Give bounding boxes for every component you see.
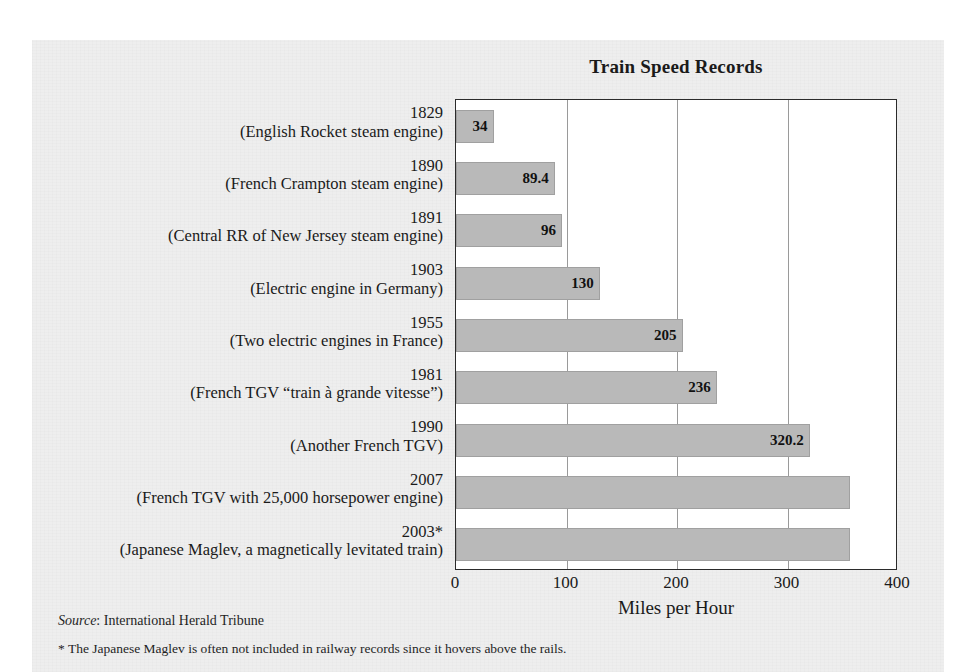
x-axis-ticks: 0100200300400 (455, 573, 897, 599)
bar-1829[interactable]: 34 (456, 110, 494, 143)
category-year: 1829 (55, 104, 443, 122)
chart-title: Train Speed Records (455, 56, 897, 78)
category-description: (French Crampton steam engine) (55, 175, 443, 193)
bar-2007[interactable] (456, 476, 850, 509)
chart-figure: Train Speed Records 3489.496130205236320… (0, 0, 976, 672)
bar-1891[interactable]: 96 (456, 214, 562, 247)
bar-value-label: 205 (654, 327, 677, 344)
category-description: (French TGV “train à grande vitesse”) (55, 384, 443, 402)
bar-row (456, 466, 898, 518)
category-label-1829: 1829(English Rocket steam engine) (55, 104, 443, 141)
bar-1903[interactable]: 130 (456, 267, 600, 300)
category-year: 1981 (55, 366, 443, 384)
bar-value-label: 130 (571, 275, 594, 292)
category-year: 1890 (55, 157, 443, 175)
x-tick-label-300: 300 (774, 573, 800, 593)
category-label-1890: 1890(French Crampton steam engine) (55, 157, 443, 194)
category-description: (Central RR of New Jersey steam engine) (55, 227, 443, 245)
category-year: 1955 (55, 314, 443, 332)
bar-value-label: 96 (541, 222, 556, 239)
category-year: 2007 (55, 471, 443, 489)
category-description: (French TGV with 25,000 horsepower engin… (55, 489, 443, 507)
bar-row (456, 519, 898, 571)
category-description: (English Rocket steam engine) (55, 123, 443, 141)
category-label-1891: 1891(Central RR of New Jersey steam engi… (55, 209, 443, 246)
bar-row: 89.4 (456, 152, 898, 204)
x-tick-label-400: 400 (884, 573, 910, 593)
bars-layer: 3489.496130205236320.2 (456, 100, 896, 569)
category-label-1903: 1903(Electric engine in Germany) (55, 261, 443, 298)
category-label-2007: 2007(French TGV with 25,000 horsepower e… (55, 471, 443, 508)
bar-1990[interactable]: 320.2 (456, 424, 810, 457)
x-tick-label-200: 200 (663, 573, 689, 593)
category-description: (Japanese Maglev, a magnetically levitat… (55, 541, 443, 559)
category-year: 1903 (55, 261, 443, 279)
bar-row: 34 (456, 100, 898, 152)
bar-value-label: 89.4 (523, 170, 549, 187)
category-year: 1990 (55, 418, 443, 436)
plot-area: 3489.496130205236320.2 (455, 99, 897, 570)
x-tick-label-0: 0 (451, 573, 460, 593)
category-label-1981: 1981(French TGV “train à grande vitesse”… (55, 366, 443, 403)
bar-value-label: 236 (688, 379, 711, 396)
bar-row: 130 (456, 257, 898, 309)
bar-1955[interactable]: 205 (456, 319, 683, 352)
category-year: 1891 (55, 209, 443, 227)
source-value: : International Herald Tribune (96, 613, 264, 628)
category-label-1955: 1955(Two electric engines in France) (55, 314, 443, 351)
source-label: Source (58, 613, 96, 628)
category-label-2003: 2003*(Japanese Maglev, a magnetically le… (55, 523, 443, 560)
maglev-footnote: * The Japanese Maglev is often not inclu… (58, 641, 566, 657)
category-label-1990: 1990(Another French TGV) (55, 418, 443, 455)
bar-row: 236 (456, 362, 898, 414)
x-axis-title: Miles per Hour (455, 597, 897, 619)
category-description: (Two electric engines in France) (55, 332, 443, 350)
bar-1890[interactable]: 89.4 (456, 162, 555, 195)
category-axis-labels: 1829(English Rocket steam engine)1890(Fr… (55, 99, 449, 570)
bar-1981[interactable]: 236 (456, 371, 717, 404)
category-description: (Electric engine in Germany) (55, 280, 443, 298)
bar-row: 96 (456, 205, 898, 257)
bar-row: 205 (456, 309, 898, 361)
category-year: 2003* (55, 523, 443, 541)
bar-value-label: 34 (473, 118, 488, 135)
bar-2003[interactable] (456, 528, 850, 561)
bar-value-label: 320.2 (770, 432, 804, 449)
category-description: (Another French TGV) (55, 437, 443, 455)
bar-row: 320.2 (456, 414, 898, 466)
source-note: Source: International Herald Tribune (58, 613, 264, 629)
x-tick-label-100: 100 (553, 573, 579, 593)
